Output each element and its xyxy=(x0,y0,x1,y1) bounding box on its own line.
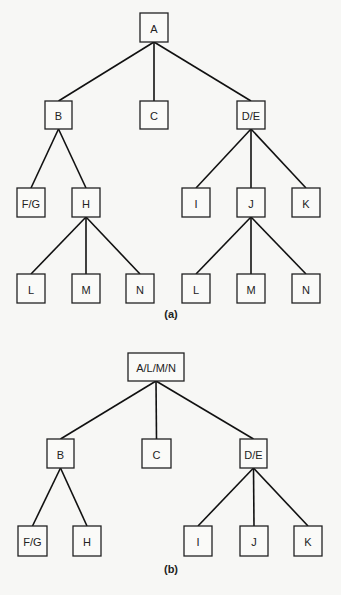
tree-node-k: K xyxy=(292,188,320,217)
node-label: F/G xyxy=(22,198,40,210)
node-label: A/L/M/N xyxy=(136,362,176,374)
tree-node-fg: F/G xyxy=(17,188,45,217)
tree-node-n2: N xyxy=(292,274,320,303)
edge-a-de xyxy=(154,42,251,101)
node-label: J xyxy=(251,536,257,548)
edges xyxy=(31,42,306,274)
node-label: N xyxy=(136,284,144,296)
caption-b: (b) xyxy=(164,563,178,575)
tree-node-l1: L xyxy=(17,274,45,303)
node-label: D/E xyxy=(244,449,262,461)
node-label: D/E xyxy=(242,110,260,122)
edge-h-l1 xyxy=(31,217,86,274)
tree-node-n1: N xyxy=(126,274,154,303)
tree-node-de: D/E xyxy=(237,101,265,129)
tree-node-fg: F/G xyxy=(18,526,47,556)
tree-node-c: C xyxy=(140,101,168,129)
tree-node-a: A xyxy=(140,13,168,42)
node-label: K xyxy=(302,198,310,210)
edge-b-fg xyxy=(31,129,59,188)
node-label: F/G xyxy=(23,536,41,548)
tree-node-i: I xyxy=(182,188,210,217)
tree-node-h: H xyxy=(72,188,100,217)
node-label: I xyxy=(194,198,197,210)
node-label: M xyxy=(81,284,90,296)
node-label: B xyxy=(57,449,64,461)
tree-node-almn: A/L/M/N xyxy=(128,353,184,381)
tree-node-h: H xyxy=(73,526,101,556)
edge-b-h xyxy=(59,129,87,188)
tree-node-i: I xyxy=(184,526,212,556)
node-label: K xyxy=(304,536,312,548)
edge-h-n1 xyxy=(86,217,140,274)
tree-node-m2: M xyxy=(237,274,265,303)
edge-de-i xyxy=(198,468,254,526)
edge-b-fg xyxy=(33,468,61,526)
tree-node-de: D/E xyxy=(240,439,267,468)
tree-a: ABCD/EF/GHIJKLMNLMN(a) xyxy=(17,13,320,320)
tree-node-j: J xyxy=(240,526,268,556)
node-label: N xyxy=(302,284,310,296)
edge-a-b xyxy=(59,42,155,101)
tree-node-b: B xyxy=(45,101,72,129)
edge-almn-de xyxy=(156,381,254,439)
edge-de-i xyxy=(196,129,251,188)
tree-node-m1: M xyxy=(72,274,100,303)
node-label: L xyxy=(193,284,199,296)
edge-j-l2 xyxy=(196,217,251,274)
tree-b: A/L/M/NBCD/EF/GHIJK(b) xyxy=(18,353,322,575)
edge-b-h xyxy=(61,468,88,526)
tree-node-b: B xyxy=(47,439,74,468)
edge-almn-c xyxy=(156,381,157,439)
tree-diagram: ABCD/EF/GHIJKLMNLMN(a)A/L/M/NBCD/EF/GHIJ… xyxy=(0,0,341,595)
tree-node-c: C xyxy=(142,439,171,468)
node-label: J xyxy=(248,198,254,210)
node-label: A xyxy=(150,23,158,35)
node-label: C xyxy=(153,449,161,461)
edge-almn-b xyxy=(61,381,157,439)
edge-de-k xyxy=(251,129,306,188)
node-label: C xyxy=(150,110,158,122)
node-label: I xyxy=(196,536,199,548)
node-label: H xyxy=(83,536,91,548)
edge-de-j xyxy=(254,468,255,526)
node-label: B xyxy=(55,110,62,122)
node-label: M xyxy=(246,284,255,296)
node-label: H xyxy=(82,198,90,210)
edge-de-k xyxy=(254,468,309,526)
tree-node-l2: L xyxy=(182,274,210,303)
caption-a: (a) xyxy=(164,308,178,320)
edge-j-n2 xyxy=(251,217,306,274)
tree-node-k: K xyxy=(294,526,322,556)
tree-node-j: J xyxy=(237,188,265,217)
node-label: L xyxy=(28,284,34,296)
